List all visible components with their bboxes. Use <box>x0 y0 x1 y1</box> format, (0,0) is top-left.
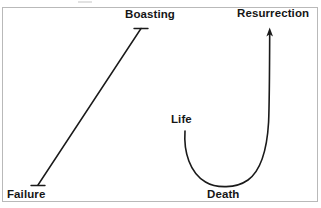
label-boasting: Boasting <box>125 9 175 21</box>
failure-to-boasting-line <box>38 29 141 186</box>
label-failure: Failure <box>7 189 45 201</box>
ascending-line-group <box>31 29 148 186</box>
u-curve-group <box>185 28 273 187</box>
diagram-canvas <box>0 0 321 208</box>
label-death: Death <box>207 189 239 201</box>
life-death-resurrection-curve <box>185 34 270 187</box>
label-life: Life <box>171 114 192 126</box>
diagram-root: Boasting Resurrection Failure Death Life <box>0 0 321 208</box>
label-resurrection: Resurrection <box>237 8 309 20</box>
